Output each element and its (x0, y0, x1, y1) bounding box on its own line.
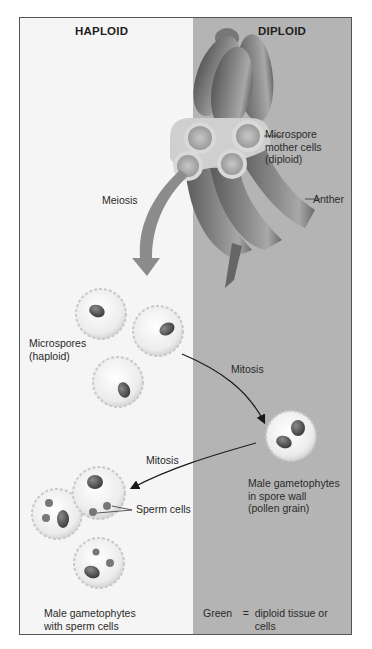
label-microspores: Microspores(haploid) (29, 337, 86, 362)
legend-row-green: Green = diploid tissue or cells (203, 607, 351, 632)
label-meiosis: Meiosis (102, 194, 138, 207)
label-sperm-cells: Sperm cells (136, 503, 191, 516)
microspores (76, 289, 183, 407)
label-anther: Anther (313, 193, 344, 206)
haploid-header: HAPLOID (75, 25, 128, 37)
diploid-header: DIPLOID (258, 25, 306, 37)
figure-frame: HAPLOID DIPLOID Microsporemother cells(d… (19, 17, 352, 635)
label-mitosis-2: Mitosis (146, 454, 179, 467)
legend-row-yellow: Yellow = haploid tissue or cells (203, 632, 351, 635)
label-microspore-mother-cells: Microsporemother cells(diploid) (265, 128, 322, 166)
gametophytes-with-sperm (32, 467, 125, 588)
color-legend: Green = diploid tissue or cells Yellow =… (203, 607, 351, 635)
diagram-art (20, 18, 352, 635)
label-male-gametophytes: Male gametophyteswith sperm cells (44, 607, 136, 632)
label-mitosis-1: Mitosis (231, 363, 264, 376)
pollen-grain (266, 411, 316, 461)
label-pollen-grain: Male gametophytesin spore wall(pollen gr… (248, 477, 340, 515)
meiosis-arrow (132, 170, 188, 276)
